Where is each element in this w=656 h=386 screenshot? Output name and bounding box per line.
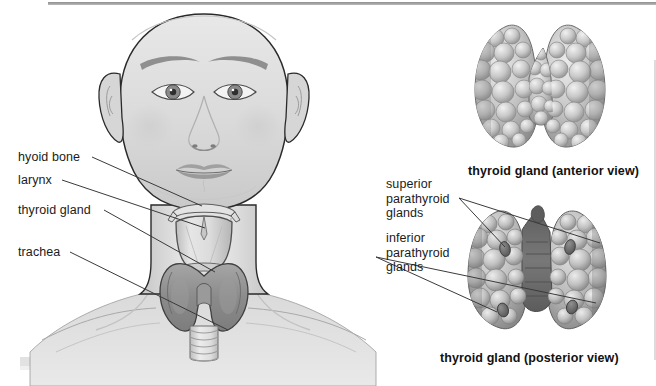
thyroid-posterior-artwork [452, 190, 622, 342]
anatomy-figure-canvas: hyoid bone larynx thyroid gland trachea … [0, 0, 656, 386]
caption-anterior-view: thyroid gland (anterior view) [468, 164, 639, 178]
left-ear [99, 73, 123, 142]
right-ear [285, 73, 309, 142]
label-thyroid-gland: thyroid gland [18, 203, 91, 218]
head-neck-artwork [0, 0, 400, 386]
label-trachea: trachea [18, 245, 60, 260]
label-hyoid-bone: hyoid bone [18, 150, 80, 165]
label-larynx: larynx [18, 173, 52, 188]
label-superior-parathyroid-glands: superior parathyroid glands [386, 177, 450, 221]
label-inferior-parathyroid-glands: inferior parathyroid glands [386, 231, 450, 275]
caption-posterior-view: thyroid gland (posterior view) [440, 351, 619, 365]
thyroid-anterior-artwork [455, 12, 620, 160]
